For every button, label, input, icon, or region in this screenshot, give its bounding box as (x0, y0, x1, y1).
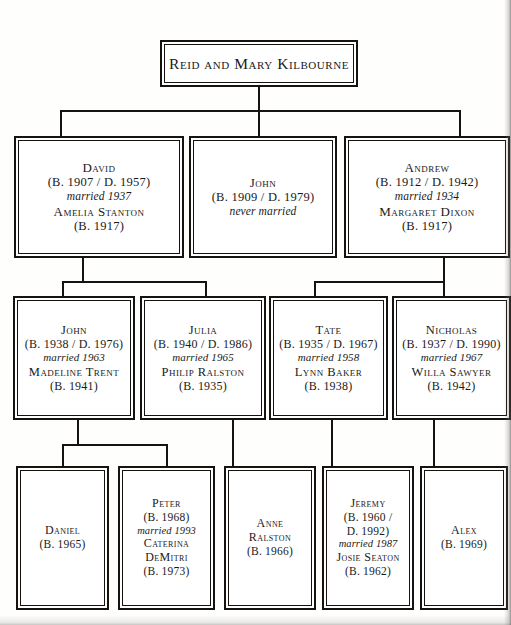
marriage-note: married 1965 (172, 351, 234, 364)
person-years: (B. 1935 / D. 1967) (279, 337, 378, 351)
person-name: Tate (316, 323, 342, 338)
person-name: Anne (257, 517, 284, 531)
node-anne-ralston[interactable]: Anne Ralston (B. 1966) (224, 466, 316, 610)
connector-gen2-bus (60, 110, 460, 112)
node-inner: Alex (B. 1969) (424, 470, 504, 606)
node-inner: John (B. 1938 / D. 1976) married 1963 Ma… (17, 300, 131, 416)
person-years-line2: D. 1992) (347, 525, 390, 539)
person-name: Jeremy (350, 497, 385, 511)
node-inner: Andrew (B. 1912 / D. 1942) married 1934 … (348, 140, 506, 254)
connector-to-john-gen3 (62, 281, 64, 296)
marriage-note: married 1967 (421, 351, 483, 364)
person-name: Julia (189, 323, 218, 338)
person-name: John (61, 323, 87, 338)
spouse-name: Philip Ralston (162, 365, 245, 380)
node-nicholas[interactable]: Nicholas (B. 1937 / D. 1990) married 196… (392, 296, 511, 420)
person-name: John (250, 175, 276, 190)
spouse-years: (B. 1973) (143, 565, 189, 579)
person-name: Andrew (404, 160, 449, 175)
node-daniel[interactable]: Daniel (B. 1965) (16, 466, 109, 610)
node-inner: David (B. 1907 / D. 1957) married 1937 A… (18, 140, 180, 254)
node-andrew[interactable]: Andrew (B. 1912 / D. 1942) married 1934 … (344, 136, 510, 258)
person-years: (B. 1937 / D. 1990) (402, 337, 501, 351)
node-david[interactable]: David (B. 1907 / D. 1957) married 1937 A… (14, 136, 184, 258)
spouse-name: Madeline Trent (29, 365, 119, 380)
node-alex[interactable]: Alex (B. 1969) (420, 466, 508, 610)
node-inner: Jeremy (B. 1960 / D. 1992) married 1987 … (326, 470, 410, 606)
node-reid-and-mary-kilbourne[interactable]: Reid and Mary Kilbourne (160, 40, 358, 87)
person-name: Alex (451, 524, 477, 538)
connector-to-david (60, 110, 62, 136)
marriage-note: married 1963 (43, 351, 105, 364)
connector-david-bus (62, 281, 207, 283)
connector-andrew-bus (314, 281, 445, 283)
page-edge-shadow-bottom (0, 615, 511, 625)
spouse-years: (B. 1938) (304, 379, 352, 393)
person-surname: Ralston (249, 531, 291, 545)
connector-to-peter (166, 444, 168, 466)
person-name: Peter (152, 497, 181, 511)
person-years: (B. 1938 / D. 1976) (25, 337, 124, 351)
marriage-note: married 1934 (395, 190, 459, 204)
spouse-years: (B. 1935) (179, 379, 227, 393)
node-peter[interactable]: Peter (B. 1968) married 1993 Caterina De… (118, 466, 215, 610)
spouse-years: (B. 1917) (74, 219, 124, 234)
node-inner: Reid and Mary Kilbourne (164, 44, 354, 83)
connector-to-andrew (459, 110, 461, 136)
marriage-note: never married (230, 205, 297, 219)
connector-to-daniel (62, 444, 64, 466)
person-years: (B. 1968) (143, 511, 189, 525)
node-inner: Nicholas (B. 1937 / D. 1990) married 196… (396, 300, 507, 416)
marriage-note: married 1937 (67, 190, 131, 204)
spouse-name: Caterina (144, 537, 190, 551)
person-years: (B. 1969) (441, 538, 487, 552)
spouse-surname: DeMitri (145, 551, 188, 565)
connector-to-john-gen2 (258, 110, 260, 136)
spouse-years: (B. 1917) (402, 219, 452, 234)
person-years: (B. 1940 / D. 1986) (154, 337, 253, 351)
node-john-gen3[interactable]: John (B. 1938 / D. 1976) married 1963 Ma… (13, 296, 135, 420)
spouse-years: (B. 1941) (50, 379, 98, 393)
person-years: (B. 1966) (247, 545, 293, 559)
person-name: Nicholas (426, 323, 478, 338)
spouse-name: Amelia Stanton (54, 204, 145, 219)
connector-david-drop (82, 258, 84, 281)
connector-julia-to-anne (232, 420, 234, 466)
spouse-name: Margaret Dixon (379, 204, 475, 219)
person-years: (B. 1909 / D. 1979) (212, 190, 315, 205)
person-name: Reid and Mary Kilbourne (169, 55, 349, 73)
node-inner: Peter (B. 1968) married 1993 Caterina De… (122, 470, 211, 606)
connector-nicholas-to-alex (433, 420, 435, 466)
node-inner: John (B. 1909 / D. 1979) never married (193, 140, 333, 254)
person-name: Daniel (45, 524, 80, 538)
connector-to-julia (205, 281, 207, 296)
node-inner: Anne Ralston (B. 1966) (228, 470, 312, 606)
node-tate[interactable]: Tate (B. 1935 / D. 1967) married 1958 Ly… (269, 296, 388, 420)
connector-tate-to-jeremy (331, 420, 333, 466)
node-john-gen2[interactable]: John (B. 1909 / D. 1979) never married (189, 136, 337, 258)
node-jeremy[interactable]: Jeremy (B. 1960 / D. 1992) married 1987 … (322, 466, 414, 610)
node-julia[interactable]: Julia (B. 1940 / D. 1986) married 1965 P… (140, 296, 266, 420)
connector-to-nicholas (443, 281, 445, 296)
person-years: (B. 1912 / D. 1942) (376, 175, 479, 190)
connector-john-gen3-drop (77, 420, 79, 444)
person-years: (B. 1907 / D. 1957) (48, 175, 151, 190)
spouse-years: (B. 1962) (345, 565, 391, 579)
spouse-years: (B. 1942) (427, 379, 475, 393)
person-name: David (83, 160, 116, 175)
node-inner: Daniel (B. 1965) (20, 470, 105, 606)
marriage-note: married 1958 (298, 351, 360, 364)
spouse-name: Willa Sawyer (412, 365, 492, 380)
connector-john-gen3-bus (62, 444, 168, 446)
connector-andrew-drop (443, 258, 445, 281)
spouse-name: Lynn Baker (295, 365, 362, 380)
person-years: (B. 1965) (39, 538, 85, 552)
spouse-name: Josie Seaton (336, 551, 399, 565)
node-inner: Julia (B. 1940 / D. 1986) married 1965 P… (144, 300, 262, 416)
person-years-line1: (B. 1960 / (344, 511, 393, 525)
connector-to-tate (314, 281, 316, 296)
family-tree-page: Reid and Mary Kilbourne David (B. 1907 /… (0, 0, 511, 625)
node-inner: Tate (B. 1935 / D. 1967) married 1958 Ly… (273, 300, 384, 416)
